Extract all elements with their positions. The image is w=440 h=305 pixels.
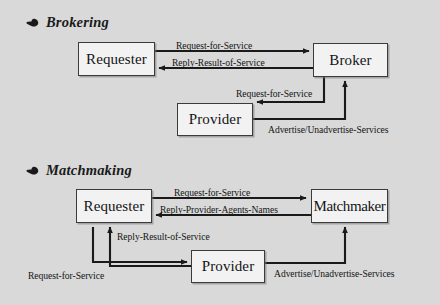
pointing-hand-bullet-icon [26,166,39,177]
edge-label-provider-to-req: Reply-Result-of-Service [117,231,210,242]
node-label: Requester [84,198,145,215]
edge-label-provider-to-broker: Advertise/Unadvertise-Services [268,124,389,135]
node-matchmaker[interactable]: Matchmaker [311,189,388,223]
section-heading-brokering: Brokering [26,14,109,31]
node-provider-brokering[interactable]: Provider [177,103,253,136]
edge-label-req-to-matchmaker: Request-for-Service [174,187,250,198]
edge-label-broker-to-provider: Request-for-Service [236,88,312,99]
section-heading-matchmaking: Matchmaking [26,162,132,179]
node-provider-matchmaking[interactable]: Provider [191,250,265,283]
edge-line-provider-to-matchmaker [265,227,345,263]
edge-line-provider-to-broker [253,81,345,119]
section-title-brokering: Brokering [46,14,109,31]
pointing-hand-bullet-icon [26,18,39,29]
node-label: Requester [86,51,147,68]
section-title-matchmaking: Matchmaking [46,162,132,179]
node-label: Broker [329,52,371,69]
node-label: Provider [189,111,241,128]
edge-label-req-to-broker: Request-for-Service [176,40,252,51]
node-label: Matchmaker [314,198,386,215]
edge-label-req-to-provider: Request-for-Service [28,270,104,281]
node-label: Provider [202,258,254,275]
node-broker[interactable]: Broker [313,43,388,77]
edge-label-broker-to-req: Reply-Result-of-Service [172,57,265,68]
node-requester-matchmaking[interactable]: Requester [76,189,152,223]
diagram-page: Brokering Requester Broker Provider Requ… [0,0,440,305]
edge-label-matchmaker-to-req: Reply-Provider-Agents-Names [160,204,278,215]
node-requester-brokering[interactable]: Requester [78,42,155,76]
edge-label-provider-to-matchmaker: Advertise/Unadvertise-Services [274,268,395,279]
